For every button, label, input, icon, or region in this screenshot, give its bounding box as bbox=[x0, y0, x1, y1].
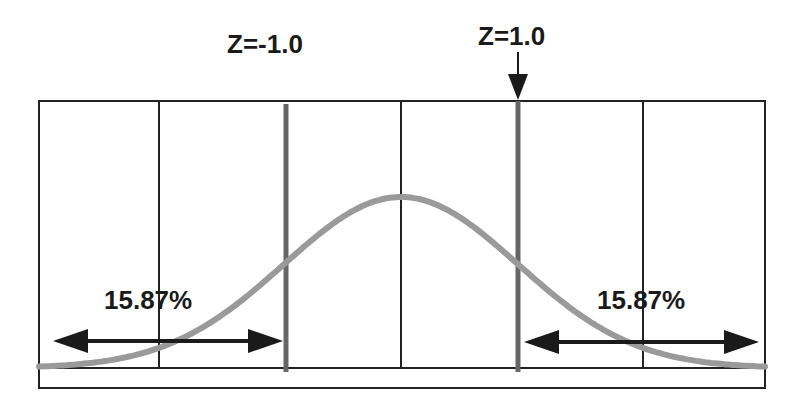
down-arrow-icon bbox=[508, 74, 528, 100]
z-label-plus-1: Z=1.0 bbox=[478, 23, 545, 49]
z-label-minus-1: Z=-1.0 bbox=[227, 31, 303, 57]
right-tail-percent-label: 15.87% bbox=[597, 287, 685, 313]
left-tail-double-arrow-icon bbox=[53, 329, 283, 353]
left-tail-percent-label: 15.87% bbox=[104, 287, 192, 313]
normal-distribution-diagram bbox=[0, 0, 799, 418]
